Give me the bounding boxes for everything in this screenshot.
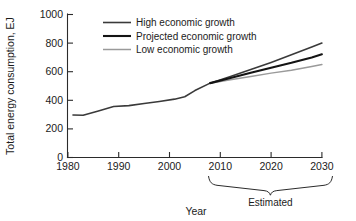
y-tick-labels: 1000 800 600 400 200 0 [40,8,64,163]
line-chart: 1000 800 600 400 200 0 1980 1990 2000 20… [0,0,356,221]
y-tick-label-400: 400 [45,94,63,106]
y-tick-label-600: 600 [45,65,63,77]
legend-item-projected-economic-growth: Projected economic growth [103,31,257,42]
series-line-historical [73,83,210,115]
x-tick-labels: 1980 1990 2000 2010 2020 2030 [56,160,334,172]
x-tick-label-2020: 2020 [259,160,283,172]
legend-label-projected-economic-growth: Projected economic growth [136,31,257,42]
legend-item-high-economic-growth: High economic growth [103,17,235,28]
series-line-low-economic-growth [210,65,322,84]
x-tick-label-2030: 2030 [310,160,334,172]
brace-icon [209,176,333,195]
chart-legend: High economic growth Projected economic … [103,17,257,55]
y-tick-label-1000: 1000 [40,8,64,20]
x-tick-label-1990: 1990 [107,160,131,172]
legend-label-high-economic-growth: High economic growth [136,17,235,28]
legend-label-low-economic-growth: Low economic growth [136,44,233,55]
chart-figure: 1000 800 600 400 200 0 1980 1990 2000 20… [0,0,356,221]
estimated-bracket: Estimated [209,176,333,208]
y-tick-label-800: 800 [45,37,63,49]
x-tick-marks [68,152,322,158]
y-axis-title: Total energy consumption, EJ [4,17,16,155]
x-tick-label-2010: 2010 [209,160,233,172]
estimated-label: Estimated [248,197,292,208]
y-tick-label-200: 200 [45,122,63,134]
y-tick-marks [68,15,74,158]
legend-item-low-economic-growth: Low economic growth [103,44,233,55]
x-axis-title: Year [185,205,207,217]
x-tick-label-2000: 2000 [158,160,182,172]
series-line-projected-economic-growth [210,54,322,83]
x-tick-label-1980: 1980 [56,160,80,172]
